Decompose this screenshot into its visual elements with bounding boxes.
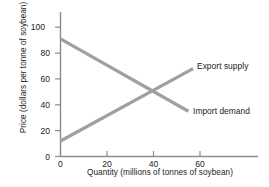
y-tick-label-100: 100 [21,22,45,32]
x-tick-label-20: 20 [95,159,119,169]
y-tick-label-20: 20 [26,126,50,136]
series-label-export-supply: Export supply [197,61,248,71]
y-tick-label-0: 0 [26,152,50,162]
series-line-import-demand [61,39,189,111]
x-tick-label-40: 40 [142,159,166,169]
series-label-import-demand: Import demand [193,106,250,116]
x-tick-label-60: 60 [188,159,212,169]
chart-container: Price (dollars per tonne of soybean) Qua… [0,0,269,187]
y-tick-label-60: 60 [26,74,50,84]
x-axis-ticks [61,151,201,157]
y-tick-label-80: 80 [26,48,50,58]
y-axis-ticks [55,27,61,156]
x-tick-label-0: 0 [49,159,73,169]
series-line-export-supply [61,69,194,141]
x-axis-title: Quantity (millions of tonnes of soybean) [60,168,260,177]
y-tick-label-40: 40 [26,100,50,110]
